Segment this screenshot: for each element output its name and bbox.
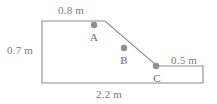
point-marker-b	[121, 45, 127, 51]
dimension-label-right: 0.5 m	[171, 54, 197, 66]
point-marker-c	[153, 63, 159, 69]
dimension-label-left: 0.7 m	[7, 44, 33, 56]
dimension-label-bottom: 2.2 m	[96, 88, 122, 100]
point-label-c: C	[150, 72, 164, 84]
embankment-outline-polygon	[42, 21, 203, 83]
diagram-figure: 0.8 m 0.7 m 0.5 m 2.2 m A B C	[0, 0, 217, 104]
dimension-label-top: 0.8 m	[58, 4, 84, 16]
point-label-a: A	[87, 31, 101, 43]
point-label-b: B	[117, 54, 131, 66]
point-marker-a	[91, 22, 97, 28]
